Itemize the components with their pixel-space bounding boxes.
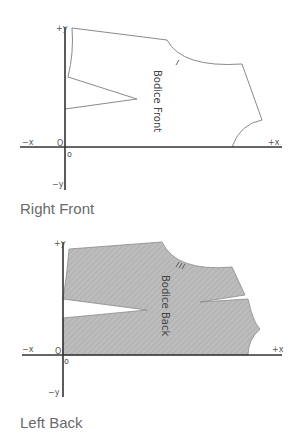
svg-text:−y: −y xyxy=(52,180,64,189)
caption-right-front: Right Front xyxy=(20,200,94,217)
label-neg-x: −x xyxy=(22,138,34,147)
svg-text:o: o xyxy=(64,357,69,366)
svg-text:+y: +y xyxy=(54,239,66,248)
label-neg-x: −x xyxy=(22,345,34,354)
label-neg-y: −y xyxy=(48,388,60,397)
svg-text:−y: −y xyxy=(48,388,60,397)
label-origin-upper: O xyxy=(55,347,61,356)
svg-text:−x: −x xyxy=(22,345,34,354)
svg-text:Bodice Front: Bodice Front xyxy=(152,70,163,132)
notch-mark xyxy=(176,60,179,65)
label-origin-upper: O xyxy=(57,139,63,148)
svg-text:O: O xyxy=(55,347,61,356)
svg-text:+y: +y xyxy=(56,24,68,33)
svg-text:o: o xyxy=(67,150,72,159)
figure-left-back: +y −x O o +x −y Bodice Back Left Back xyxy=(0,230,296,445)
bodice-front-diagram: +y −x O o +x −y Bodice Front xyxy=(0,0,296,200)
label-pos-y: +y xyxy=(56,24,68,33)
svg-text:+x: +x xyxy=(268,138,280,147)
svg-text:−x: −x xyxy=(22,138,34,147)
label-pos-x: +x xyxy=(272,345,284,354)
piece-label-front: Bodice Front xyxy=(152,70,163,132)
svg-text:+x: +x xyxy=(272,345,284,354)
bodice-back-diagram: +y −x O o +x −y Bodice Back xyxy=(0,230,296,410)
label-origin-lower: o xyxy=(67,150,72,159)
svg-text:Bodice Back: Bodice Back xyxy=(160,275,171,336)
figure-right-front: +y −x O o +x −y Bodice Front Right Front xyxy=(0,0,296,200)
caption-left-back: Left Back xyxy=(20,414,83,431)
svg-text:O: O xyxy=(57,139,63,148)
label-neg-y: −y xyxy=(52,180,64,189)
label-origin-lower: o xyxy=(64,357,69,366)
piece-label-back: Bodice Back xyxy=(160,275,171,336)
label-pos-y: +y xyxy=(54,239,66,248)
label-pos-x: +x xyxy=(268,138,280,147)
